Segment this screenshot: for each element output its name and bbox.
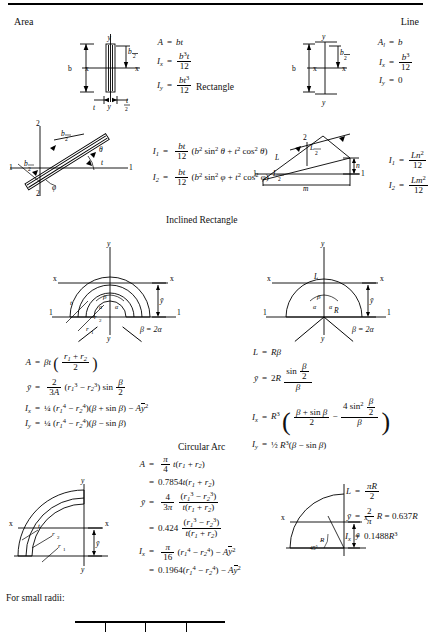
svg-text:2: 2	[36, 119, 40, 128]
svg-text:ȳ: ȳ	[369, 296, 374, 305]
svg-text:x: x	[380, 274, 384, 283]
svg-text:1: 1	[129, 163, 133, 172]
svg-text:x: x	[85, 64, 89, 73]
svg-text:1: 1	[387, 308, 391, 317]
svg-text:x: x	[313, 64, 317, 73]
svg-text:b: b	[68, 64, 72, 73]
svg-text:y: y	[106, 239, 111, 248]
svg-text:ȳ: ȳ	[95, 539, 100, 548]
table-divider-3	[186, 623, 187, 632]
svg-text:x: x	[53, 274, 57, 283]
svg-text:x: x	[267, 274, 271, 283]
circular-arc-caption: Circular Arc	[178, 442, 225, 452]
rectangle-line-equations: Al=b Ix=b312 Iy=0	[372, 38, 413, 86]
svg-text:r: r	[94, 313, 97, 321]
svg-text:1: 1	[91, 330, 94, 335]
small-radii-note: For small radii:	[6, 593, 65, 603]
svg-text:y: y	[107, 102, 112, 111]
svg-text:b: b	[292, 64, 296, 73]
quarter-arc-area-equations: A= π4 t(r1 + r2) =0.7854t(r1 + r2) ȳ= 43…	[132, 455, 241, 577]
svg-text:x: x	[9, 519, 13, 528]
inclined-rectangle-caption: Inclined Rectangle	[166, 215, 237, 225]
rectangle-caption: Rectangle	[196, 82, 234, 92]
svg-text:L: L	[309, 143, 314, 152]
svg-text:1: 1	[263, 308, 267, 317]
svg-text:45°: 45°	[310, 545, 318, 551]
svg-text:φ: φ	[52, 183, 56, 192]
svg-text:2: 2	[99, 318, 102, 323]
svg-text:β: β	[316, 293, 321, 301]
svg-text:1: 1	[9, 163, 13, 172]
inclined-rectangle-area-diagram: 2 2 1 1 b 2 b 2 t θ φ	[10, 118, 140, 196]
svg-text:α: α	[115, 304, 119, 310]
svg-text:α: α	[313, 304, 317, 310]
svg-text:m: m	[303, 184, 309, 193]
svg-text:x: x	[135, 64, 139, 73]
svg-text:β: β	[102, 293, 107, 301]
svg-text:r: r	[86, 325, 89, 333]
svg-text:r: r	[52, 530, 55, 538]
svg-text:1: 1	[361, 169, 365, 178]
svg-text:R: R	[319, 536, 325, 544]
inclined-rectangle-line-diagram: 1 1 2 L L 2 L 2 n m	[255, 128, 380, 198]
svg-text:2: 2	[125, 106, 128, 112]
reference-page: Area Line y y x	[0, 0, 431, 632]
svg-text:x: x	[170, 274, 174, 283]
svg-text:θ: θ	[99, 145, 103, 154]
svg-text:y: y	[320, 334, 325, 343]
quarter-arc-area-diagram: y y x x ȳ t r 2 r 1	[8, 478, 113, 573]
svg-text:t: t	[38, 522, 41, 530]
column-header-area: Area	[14, 16, 33, 27]
rectangle-line-diagram: y y x x b b 2	[285, 32, 365, 108]
svg-text:α: α	[329, 304, 333, 310]
circular-arc-line-equations: L=Rβ ȳ=2R sin β2 β Ix=R3 ( β + sin β2 − …	[245, 348, 390, 451]
svg-text:t: t	[93, 103, 96, 112]
circular-arc-area-diagram: y y x x 1 1 ȳ β α α t r 1 r 2	[48, 243, 188, 341]
svg-text:x: x	[342, 64, 346, 73]
svg-text:2: 2	[57, 535, 60, 540]
svg-text:2: 2	[36, 189, 40, 198]
svg-text:L: L	[313, 272, 318, 281]
svg-text:y: y	[106, 334, 111, 343]
svg-text:1: 1	[63, 547, 66, 552]
svg-text:y: y	[321, 98, 326, 107]
svg-text:L: L	[274, 153, 279, 162]
svg-text:R: R	[333, 306, 339, 315]
circular-arc-line-beta-note: β = 2α	[352, 325, 374, 334]
svg-text:b: b	[128, 47, 132, 56]
svg-text:2: 2	[133, 53, 136, 59]
svg-text:x: x	[281, 513, 285, 522]
inclined-rectangle-area-equations: I1= bt12 (b2 sin2 θ + t2 cos2 θ) I2= bt1…	[146, 142, 269, 188]
svg-text:t: t	[126, 96, 129, 105]
svg-text:r: r	[58, 542, 61, 550]
inclined-rectangle-line-equations: I1=Ln212 I2=Lm212	[382, 150, 429, 196]
svg-text:2: 2	[65, 136, 68, 142]
table-divider-2	[145, 623, 146, 632]
rectangle-area-equations: A=bt Ix=b3t12 Iy=bt312	[150, 38, 192, 96]
svg-text:2: 2	[28, 166, 31, 172]
svg-text:1: 1	[177, 308, 181, 317]
svg-text:L: L	[272, 169, 277, 178]
svg-text:n: n	[356, 161, 360, 170]
table-top-rule	[75, 621, 225, 623]
quarter-arc-line-equations: L=πR2 ȳ=2π R = 0.637R Ix=0.1488R3	[338, 482, 418, 542]
table-divider-1	[105, 623, 106, 632]
svg-text:2: 2	[315, 150, 318, 156]
svg-text:2: 2	[278, 176, 281, 182]
svg-text:y: y	[80, 565, 85, 574]
top-rule	[8, 3, 423, 5]
svg-text:2: 2	[303, 133, 307, 142]
circular-arc-area-equations: A=βt ( r1 + r22 ) ȳ= 23A (r13 − r23) sin…	[18, 352, 148, 429]
svg-text:1: 1	[49, 308, 53, 317]
svg-text:1: 1	[253, 169, 257, 178]
circular-arc-area-beta-note: β = 2α	[140, 325, 162, 334]
svg-text:x: x	[105, 519, 109, 528]
svg-text:t: t	[101, 158, 104, 167]
svg-text:y: y	[320, 239, 325, 248]
svg-text:2: 2	[344, 55, 347, 61]
svg-text:y: y	[321, 32, 326, 41]
svg-text:y: y	[107, 33, 112, 42]
svg-text:ȳ: ȳ	[159, 296, 164, 305]
column-header-line: Line	[401, 16, 419, 27]
svg-text:y: y	[80, 476, 85, 485]
